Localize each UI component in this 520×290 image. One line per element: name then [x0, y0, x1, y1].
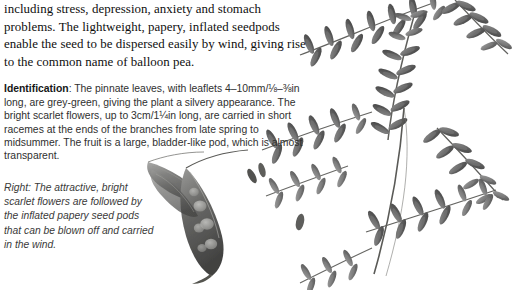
book-page: including stress, depression, anxiety an… [0, 0, 520, 290]
body-paragraph: including stress, depression, anxiety an… [4, 0, 310, 71]
text-column: including stress, depression, anxiety an… [4, 0, 310, 163]
figure-caption: Right: The attractive, bright scarlet fl… [4, 181, 156, 252]
identification-text: The pinnate leaves, with leaflets 4–10mm… [4, 83, 302, 161]
identification-paragraph: Identification: The pinnate leaves, with… [4, 71, 307, 162]
identification-label: Identification [4, 83, 69, 94]
